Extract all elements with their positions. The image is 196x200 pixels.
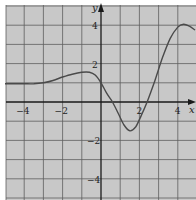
y-tick-label: 2	[92, 60, 98, 70]
y-axis-label: y	[91, 2, 98, 13]
x-tick-label: −4	[16, 106, 30, 116]
x-tick-label: 4	[175, 106, 181, 116]
x-axis-label: x	[189, 104, 195, 115]
y-tick-label: −2	[87, 136, 100, 146]
y-tick-label: −4	[87, 175, 101, 185]
x-tick-label: −2	[55, 106, 68, 116]
function-graph: x y −4−22442−2−4	[0, 0, 196, 200]
y-tick-label: 4	[92, 21, 98, 31]
